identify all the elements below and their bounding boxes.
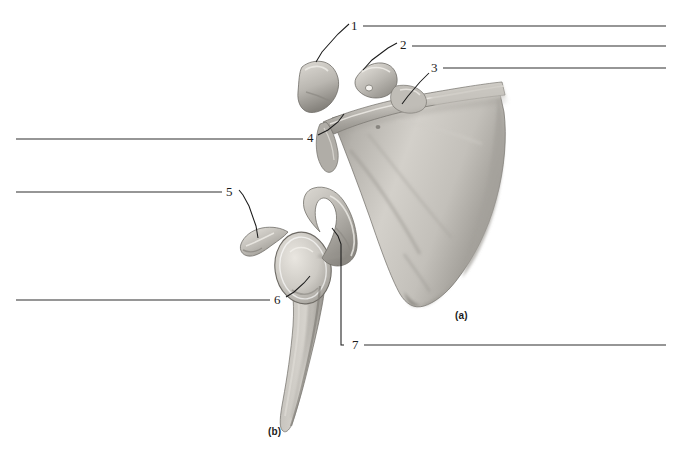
label-number-5: 5 <box>226 185 233 198</box>
label-number-3: 3 <box>431 61 438 74</box>
figure-canvas <box>0 0 684 456</box>
panel-caption-a: (a) <box>455 310 468 321</box>
panel-caption-b: (b) <box>268 426 281 437</box>
label-number-1: 1 <box>351 19 358 32</box>
scapula-figure: 1 2 3 4 5 6 7 (a) (b) <box>0 0 684 456</box>
label-number-7: 7 <box>352 338 359 351</box>
label-number-6: 6 <box>274 293 281 306</box>
nutrient-foramen <box>376 125 381 129</box>
label-number-4: 4 <box>307 131 314 144</box>
scapular-notch-opening <box>365 85 372 91</box>
label-number-2: 2 <box>400 38 407 51</box>
